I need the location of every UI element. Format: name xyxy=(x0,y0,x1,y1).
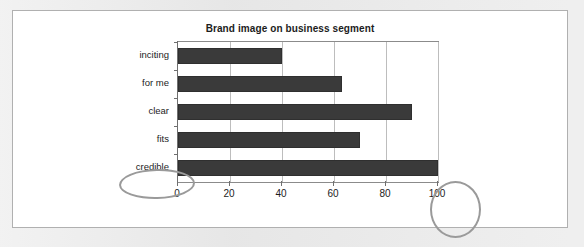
bar-for-me xyxy=(178,76,342,92)
category-label-inciting: inciting xyxy=(139,49,169,60)
chart-title: Brand image on business segment xyxy=(13,23,567,34)
x-tick-label-60: 60 xyxy=(327,188,338,199)
bar-credible xyxy=(178,160,438,176)
bar-band: clear xyxy=(178,98,438,126)
x-tick-label-20: 20 xyxy=(223,188,234,199)
gridline-100 xyxy=(438,42,439,182)
figure-panel: Brand image on business segment inciting… xyxy=(12,10,568,228)
bar-inciting xyxy=(178,48,282,64)
y-tick xyxy=(174,42,178,43)
x-tick-80 xyxy=(385,181,386,186)
x-axis: 020406080100 xyxy=(177,181,439,209)
x-tick-0 xyxy=(177,181,178,186)
y-tick xyxy=(174,70,178,71)
x-tick-label-100: 100 xyxy=(429,188,446,199)
x-tick-label-40: 40 xyxy=(275,188,286,199)
x-tick-100 xyxy=(437,181,438,186)
x-tick-label-80: 80 xyxy=(379,188,390,199)
bar-band: for me xyxy=(178,70,438,98)
y-tick xyxy=(174,154,178,155)
bar-band: inciting xyxy=(178,42,438,70)
bar-clear xyxy=(178,104,412,120)
y-tick xyxy=(174,98,178,99)
bar-fits xyxy=(178,132,360,148)
bar-band: credible xyxy=(178,154,438,182)
y-tick xyxy=(174,126,178,127)
category-label-clear: clear xyxy=(148,105,169,116)
category-label-fits: fits xyxy=(157,133,169,144)
category-label-for-me: for me xyxy=(142,77,169,88)
x-tick-40 xyxy=(281,181,282,186)
bar-band: fits xyxy=(178,126,438,154)
category-label-credible: credible xyxy=(136,161,169,172)
plot-area: incitingfor meclearfitscredible xyxy=(177,41,439,183)
x-tick-20 xyxy=(229,181,230,186)
x-tick-60 xyxy=(333,181,334,186)
x-tick-label-0: 0 xyxy=(174,188,180,199)
